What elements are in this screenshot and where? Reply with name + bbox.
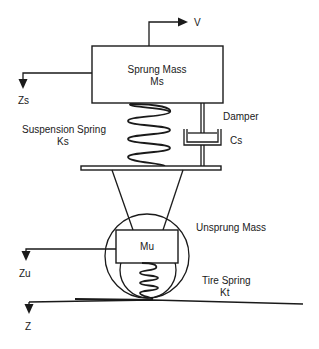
zu-arrow <box>22 249 117 261</box>
sprung-mass-label: Sprung Mass <box>128 64 187 75</box>
z-label: Z <box>25 321 31 332</box>
quarter-car-diagram: V Sprung Mass Ms Zs Suspension Spring Ks… <box>0 0 319 349</box>
road-surface <box>29 299 303 304</box>
zu-label: Zu <box>19 268 31 279</box>
axle-plate <box>81 166 221 170</box>
damper-label: Damper <box>223 111 259 122</box>
tire-spring-coil <box>140 263 158 299</box>
suspension-spring-symbol: Ks <box>57 136 69 147</box>
z-arrow <box>25 302 34 314</box>
zs-label: Zs <box>18 95 29 106</box>
unsprung-mass-label: Unsprung Mass <box>196 222 266 233</box>
unsprung-mass-symbol: Mu <box>140 241 154 252</box>
damper-symbol: Cs <box>230 135 242 146</box>
sprung-mass-symbol: Ms <box>150 76 163 87</box>
velocity-arrow <box>149 18 188 47</box>
suspension-spring-label: Suspension Spring <box>22 124 106 135</box>
damper <box>184 103 221 166</box>
velocity-label: V <box>194 17 201 28</box>
suspension-spring-coil <box>128 104 170 166</box>
tire-spring-label: Tire Spring <box>202 275 251 286</box>
tire-spring-symbol: Kt <box>220 287 230 298</box>
zs-arrow <box>19 73 93 89</box>
